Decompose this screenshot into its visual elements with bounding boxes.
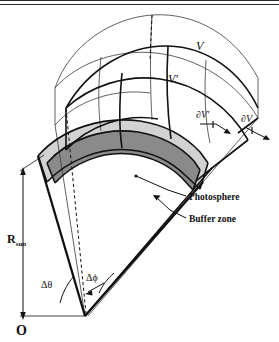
wedge-thin-lines	[55, 15, 258, 316]
photosphere-leader	[136, 176, 186, 196]
outer-cap-far-arc	[55, 15, 258, 88]
right-mid-rib	[205, 60, 210, 143]
figure-root: V V′ ∂V′ ∂V Photosphere Buffer zone Δθ Δ…	[0, 0, 279, 342]
cap-rib-b	[151, 15, 153, 120]
spherical-wedge-diagram: V V′ ∂V′ ∂V Photosphere Buffer zone Δθ Δ…	[0, 0, 279, 342]
label-volume-inner: V′	[168, 72, 178, 86]
boundary-outer-arrow	[263, 135, 271, 140]
boundary-outer-leader	[245, 127, 266, 138]
label-radius-main: R	[7, 232, 16, 246]
label-radius-subscript: sun	[16, 240, 27, 248]
label-volume-outer: V	[196, 39, 205, 53]
label-photosphere: Photosphere	[189, 192, 240, 202]
label-delta-phi: Δϕ	[86, 272, 98, 283]
diagram-labels: V V′ ∂V′ ∂V Photosphere Buffer zone Δθ Δ…	[7, 39, 254, 338]
label-buffer-zone: Buffer zone	[189, 214, 236, 224]
delta-theta-arc	[60, 276, 74, 303]
wedge-radial-edge-right-2	[85, 168, 212, 316]
radius-arrow-top	[20, 167, 26, 175]
outer-cap-near-arc	[55, 52, 258, 118]
photosphere-leader-dot	[134, 174, 137, 177]
label-delta-theta: Δθ	[41, 279, 52, 290]
inner-rib-right	[167, 46, 171, 139]
label-origin: O	[16, 323, 27, 338]
label-boundary-outer: ∂V	[241, 113, 254, 124]
label-boundary-inner: ∂V′	[196, 109, 210, 120]
